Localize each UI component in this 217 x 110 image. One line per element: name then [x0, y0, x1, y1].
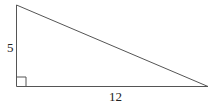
diagram-canvas: 5 12 — [0, 0, 217, 110]
right-angle-marker — [17, 77, 27, 87]
right-triangle — [17, 5, 209, 87]
triangle-figure: 5 12 — [0, 0, 217, 110]
horizontal-leg-label: 12 — [109, 89, 122, 104]
vertical-leg-label: 5 — [7, 40, 14, 55]
